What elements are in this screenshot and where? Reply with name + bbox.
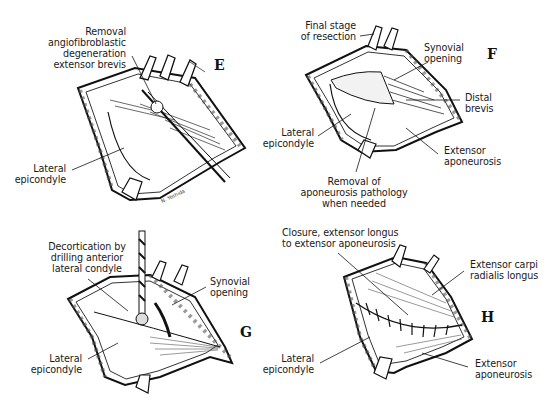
panel-letter-e: E	[214, 57, 225, 73]
label-extensor-aponeurosis-f: Extensor aponeurosis	[444, 145, 501, 167]
label-extensor-carpi-radialis-longus: Extensor carpi radialis longus	[470, 259, 538, 281]
label-synovial-opening-g: Synovial opening	[210, 276, 250, 298]
panel-f: Final stage of resection Synovial openin…	[276, 0, 553, 207]
panel-h: Closure, extensor longus to extensor apo…	[276, 207, 553, 415]
label-synovial-opening-f: Synovial opening	[424, 42, 464, 64]
label-lateral-epicondyle-e: Lateral epicondyle	[10, 163, 66, 185]
label-lateral-epicondyle-g: Lateral epicondyle	[26, 353, 82, 375]
label-lateral-epicondyle-f: Lateral epicondyle	[252, 127, 314, 149]
label-removal-angiofibroblastic: Removal angiofibroblastic degeneration e…	[46, 26, 126, 70]
panel-letter-f: F	[487, 46, 497, 62]
label-decortication: Decortication by drilling anterior later…	[42, 241, 132, 274]
label-closure: Closure, extensor longus to extensor apo…	[282, 227, 390, 249]
panel-letter-g: G	[240, 324, 252, 340]
panel-g-illustration	[0, 207, 276, 415]
label-final-stage: Final stage of resection	[292, 20, 356, 42]
panel-letter-h: H	[481, 309, 494, 325]
label-distal-brevis: Distal brevis	[465, 92, 493, 114]
label-lateral-epicondyle-h: Lateral epicondyle	[252, 353, 314, 375]
label-removal-aponeurosis: Removal of aponeurosis pathology when ne…	[300, 176, 408, 209]
panel-g: Decortication by drilling anterior later…	[0, 207, 276, 415]
panel-e: N. Yoshida Removal angiofibroblastic deg…	[0, 0, 276, 207]
label-extensor-aponeurosis-h: Extensor aponeurosis	[475, 358, 532, 380]
